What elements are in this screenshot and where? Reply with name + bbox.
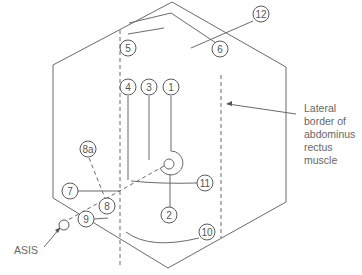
marker-6: 6 [212,41,228,57]
svg-text:10: 10 [201,227,213,238]
svg-text:7: 7 [67,186,73,197]
svg-text:12: 12 [255,9,267,20]
line-10-curve [126,232,199,243]
marker-11: 11 [197,175,213,191]
marker-4: 4 [120,79,136,95]
svg-text:4: 4 [125,82,131,93]
line-8a [89,158,105,198]
marker-3: 3 [141,79,157,95]
lateral-border-line-4: rectus [304,141,355,154]
svg-text:1: 1 [168,82,174,93]
marker-12: 12 [253,6,269,22]
line-9 [94,218,108,219]
lateral-border-line-3: abdominus [304,128,355,141]
hexagon-outline [53,2,286,268]
svg-text:8: 8 [104,201,110,212]
marker-8a: 8a [80,141,96,157]
svg-text:3: 3 [146,82,152,93]
marker-2: 2 [161,207,177,223]
lateral-border-line-5: muscle [304,154,355,167]
line-11 [131,181,197,183]
svg-text:5: 5 [125,43,131,54]
asis-label: ASIS [14,244,38,257]
svg-text:9: 9 [83,214,89,225]
marker-1: 1 [163,79,179,95]
asis-point [59,220,69,230]
lateral-border-line-1: Lateral [304,102,355,115]
line-5-leader [128,28,164,34]
marker-8: 8 [99,198,115,214]
marker-10: 10 [199,224,215,240]
umbilicus-ring [164,159,174,169]
svg-text:8a: 8a [82,144,94,155]
svg-text:6: 6 [217,44,223,55]
marker-9: 9 [78,211,94,227]
lateral-arrowhead-icon [226,101,232,106]
line-1-hook [160,96,183,175]
svg-text:11: 11 [200,178,211,189]
lateral-border-label: Lateral border of abdominus rectus muscl… [304,102,355,167]
svg-text:2: 2 [166,210,172,221]
marker-7: 7 [62,183,78,199]
marker-5: 5 [120,40,136,56]
lateral-border-line-2: border of [304,115,355,128]
